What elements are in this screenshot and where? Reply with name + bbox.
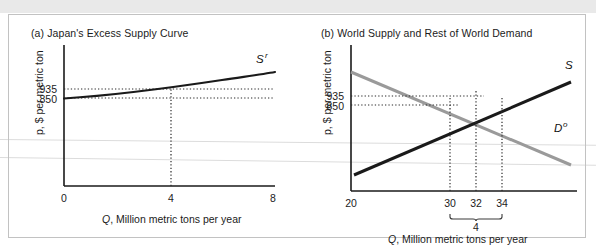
panel-b-x-axis-label-symbol: Q bbox=[388, 233, 396, 245]
scan-artifact-top-band bbox=[0, 0, 596, 13]
panel-world-supply-row-demand: (b) World Supply and Rest of World Deman… bbox=[299, 15, 587, 239]
panel-b-ytick-850: 850 bbox=[326, 100, 344, 112]
panel-b-x-axis-label: Q, Million metric tons per year bbox=[388, 233, 527, 245]
figure-frame: (a) Japan's Excess Supply Curve p, $ per… bbox=[8, 14, 586, 238]
panel-a-x-axis-label: Q, Million metric tons per year bbox=[102, 213, 241, 225]
panel-b-xtick-32: 32 bbox=[470, 197, 482, 209]
panel-b-brace-label: 4 bbox=[473, 221, 479, 233]
panel-a-plot: S r 935 850 0 4 8 bbox=[9, 15, 299, 239]
panel-b-curve-label-D: D bbox=[554, 122, 562, 134]
panel-a-curve-label-S-superscript: r bbox=[265, 51, 268, 60]
panel-b-curve-supply bbox=[354, 82, 571, 175]
panel-b-xtick-20: 20 bbox=[345, 197, 357, 209]
panel-b-xtick-30: 30 bbox=[444, 197, 456, 209]
panel-b-curve-label-D-superscript: o bbox=[563, 120, 568, 129]
panel-b-plot: S D o 935 850 20 30 32 34 4 bbox=[299, 15, 587, 239]
panel-a-xtick-0: 0 bbox=[61, 192, 67, 204]
panel-b-brace-range bbox=[450, 214, 502, 221]
panel-b-xtick-34: 34 bbox=[496, 197, 508, 209]
panel-b-curve-demand bbox=[351, 72, 571, 165]
panel-a-curve-label-S: S bbox=[256, 53, 264, 65]
panel-a-curve-excess-supply bbox=[64, 72, 275, 99]
panel-a-x-axis-label-symbol: Q bbox=[102, 213, 110, 225]
panel-japan-excess-supply: (a) Japan's Excess Supply Curve p, $ per… bbox=[9, 15, 299, 239]
panel-a-ytick-850: 850 bbox=[39, 93, 57, 105]
panel-b-curve-label-S: S bbox=[565, 59, 573, 71]
panel-a-x-axis-label-rest: , Million metric tons per year bbox=[110, 213, 241, 225]
panel-a-xtick-4: 4 bbox=[168, 192, 174, 204]
panel-b-x-axis-label-rest: , Million metric tons per year bbox=[396, 233, 527, 245]
panel-a-xtick-8: 8 bbox=[270, 192, 276, 204]
